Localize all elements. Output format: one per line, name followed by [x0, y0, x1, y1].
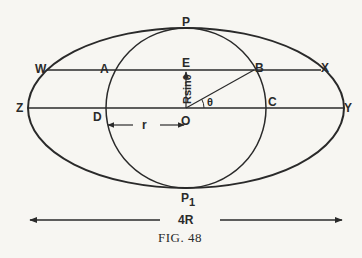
label-rsintheta: Rsinθ — [181, 74, 193, 104]
label-a: A — [100, 62, 109, 76]
label-p: P — [182, 15, 190, 29]
label-e: E — [182, 56, 190, 70]
label-r: r — [142, 118, 147, 132]
figure-48: P W A E B X Z D O C Y P 1 Rsinθ θ r 4R F… — [0, 0, 362, 258]
label-theta: θ — [207, 96, 213, 108]
label-o: O — [181, 114, 190, 128]
label-4r: 4R — [178, 213, 194, 227]
label-y: Y — [344, 101, 352, 115]
label-w: W — [35, 62, 47, 76]
label-z: Z — [16, 101, 23, 115]
label-x: X — [321, 61, 329, 75]
label-b: B — [255, 61, 264, 75]
radius-ob — [186, 70, 254, 108]
label-c: C — [268, 95, 277, 109]
angle-arc — [202, 99, 204, 108]
label-d: D — [93, 110, 102, 124]
figure-caption: FIG. 48 — [158, 230, 202, 245]
label-p1-sub: 1 — [189, 196, 195, 208]
label-p1: P — [181, 191, 189, 205]
